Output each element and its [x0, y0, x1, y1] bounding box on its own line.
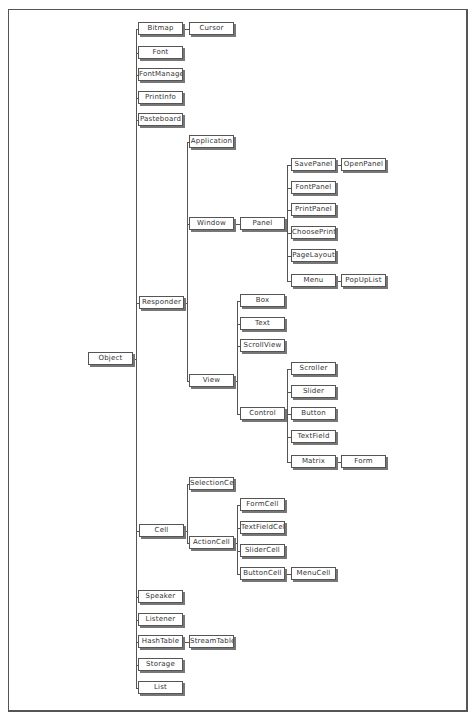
node-scrollview[interactable]: ScrollView	[240, 339, 285, 352]
node-panel[interactable]: Panel	[240, 217, 285, 230]
node-cell[interactable]: Cell	[139, 524, 184, 537]
node-box[interactable]: Box	[240, 294, 285, 307]
node-application[interactable]: Application	[189, 135, 234, 148]
node-form[interactable]: Form	[341, 455, 386, 468]
node-menu[interactable]: Menu	[291, 274, 336, 287]
node-slidercell[interactable]: SliderCell	[240, 544, 285, 557]
node-buttoncell[interactable]: ButtonCell	[240, 567, 285, 580]
connector	[136, 29, 137, 688]
node-selectioncell[interactable]: SelectionCell	[189, 477, 234, 490]
diagram-frame	[8, 9, 468, 712]
connector	[237, 505, 238, 574]
node-textfield[interactable]: TextField	[291, 430, 336, 443]
node-fontmanager[interactable]: FontManager	[138, 68, 183, 81]
node-pasteboard[interactable]: Pasteboard	[138, 113, 183, 126]
node-button[interactable]: Button	[291, 407, 336, 420]
node-chooseprinter[interactable]: ChoosePrinte	[291, 226, 336, 239]
node-menucell[interactable]: MenuCell	[291, 567, 336, 580]
node-printpanel[interactable]: PrintPanel	[291, 203, 336, 216]
node-text[interactable]: Text	[240, 317, 285, 330]
node-control[interactable]: Control	[240, 407, 285, 420]
node-listener[interactable]: Listener	[138, 613, 183, 626]
node-streamtable[interactable]: StreamTable	[189, 635, 234, 648]
node-fontpanel[interactable]: FontPanel	[291, 181, 336, 194]
node-scroller[interactable]: Scroller	[291, 362, 336, 375]
node-actioncell[interactable]: ActionCell	[189, 536, 234, 549]
node-window[interactable]: Window	[189, 217, 234, 230]
node-openpanel[interactable]: OpenPanel	[341, 158, 386, 171]
node-speaker[interactable]: Speaker	[138, 590, 183, 603]
node-font[interactable]: Font	[138, 46, 183, 59]
connector	[287, 165, 288, 282]
node-cursor[interactable]: Cursor	[189, 22, 234, 35]
node-view[interactable]: View	[189, 374, 234, 387]
node-hashtable[interactable]: HashTable	[138, 635, 183, 648]
connector	[237, 301, 238, 414]
node-list[interactable]: List	[138, 681, 183, 694]
node-object[interactable]: Object	[88, 352, 133, 365]
connector	[187, 142, 188, 382]
node-slider[interactable]: Slider	[291, 385, 336, 398]
node-printinfo[interactable]: PrintInfo	[138, 91, 183, 104]
connector	[287, 369, 288, 462]
node-storage[interactable]: Storage	[138, 658, 183, 671]
node-popuplist[interactable]: PopUpList	[341, 274, 386, 287]
node-textfieldcell[interactable]: TextFieldCell	[240, 521, 285, 534]
node-responder[interactable]: Responder	[139, 296, 184, 309]
node-savepanel[interactable]: SavePanel	[291, 158, 336, 171]
node-bitmap[interactable]: Bitmap	[138, 22, 183, 35]
node-pagelayout[interactable]: PageLayout	[291, 249, 336, 262]
node-matrix[interactable]: Matrix	[291, 455, 336, 468]
node-formcell[interactable]: FormCell	[240, 498, 285, 511]
connector	[187, 484, 188, 544]
